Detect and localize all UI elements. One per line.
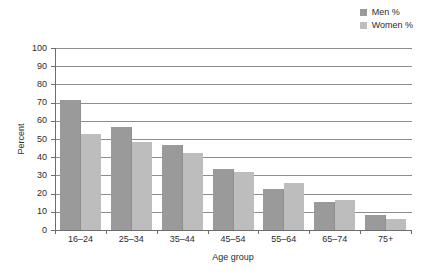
bar-men (213, 169, 234, 230)
bar-men (60, 100, 81, 230)
legend-swatch-men-icon (360, 9, 367, 16)
x-axis-category-label: 45–54 (208, 234, 259, 245)
bar-group (157, 48, 208, 230)
bar-men (263, 189, 284, 230)
legend-item-men: Men % (360, 7, 400, 17)
x-axis-category-label: 55–64 (258, 234, 309, 245)
legend-label-women: Women % (372, 20, 413, 30)
bar-group (106, 48, 157, 230)
bar-women (183, 153, 203, 230)
x-axis-category-label: 35–44 (157, 234, 208, 245)
bar-group (309, 48, 360, 230)
legend-label-men: Men % (372, 7, 400, 17)
bar-chart: Men % Women % Percent 100908070605040302… (0, 0, 431, 275)
x-axis-title: Age group (55, 252, 411, 262)
bar-women (234, 172, 254, 230)
bar-men (162, 145, 183, 230)
bar-group (360, 48, 411, 230)
x-axis-labels: 16–2425–3435–4445–5455–6465–7475+ (55, 234, 411, 245)
y-axis-title: Percent (14, 48, 28, 230)
bar-women (386, 219, 406, 230)
bar-men (365, 215, 386, 230)
y-axis-title-wrap: Percent (14, 48, 28, 230)
bar-women (335, 200, 355, 230)
legend-swatch-women-icon (360, 22, 367, 29)
bar-group (55, 48, 106, 230)
legend-item-women: Women % (360, 20, 413, 30)
bar-women (284, 183, 304, 230)
bar-group (258, 48, 309, 230)
x-axis-tick-mark (411, 230, 412, 234)
x-axis-category-label: 75+ (360, 234, 411, 245)
chart-legend: Men % Women % (360, 7, 413, 30)
bar-men (314, 202, 335, 230)
x-axis-category-label: 16–24 (55, 234, 106, 245)
bar-group (208, 48, 259, 230)
bar-women (81, 134, 101, 230)
x-axis-category-label: 65–74 (309, 234, 360, 245)
x-axis-category-label: 25–34 (106, 234, 157, 245)
bar-groups (55, 48, 411, 230)
bar-men (111, 127, 132, 230)
bar-women (132, 142, 152, 230)
